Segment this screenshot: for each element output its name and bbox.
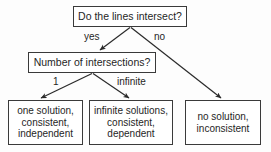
node-one-solution: one solution, consistent, independent [8,100,83,145]
node-one-solution-line-1: one solution, [17,105,74,117]
edge-label-infinite: infinite [117,76,146,87]
edge-intersections-to-one-solution [41,74,92,99]
node-root-question-line-1: Do the lines intersect? [78,10,182,22]
node-one-solution-line-2: consistent, [22,117,70,129]
node-intersections-question: Number of intersections? [28,52,156,73]
edge-label-yes: yes [84,31,100,42]
node-infinite-solutions-line-1: infinite solutions, [94,105,168,117]
node-infinite-solutions-line-3: dependent [107,128,154,140]
edge-label-one: 1 [53,76,59,87]
node-intersections-question-line-1: Number of intersections? [34,56,151,68]
edge-label-no: no [154,31,165,42]
node-infinite-solutions: infinite solutions, consistent, dependen… [89,100,173,145]
flowchart-diagram: Do the lines intersect? Number of inters… [0,0,271,152]
node-infinite-solutions-line-2: consistent, [107,117,155,129]
node-one-solution-line-3: independent [18,128,73,140]
node-no-solution: no solution, inconsistent [185,100,261,145]
edge-root-to-intersections [100,28,130,51]
node-root-question: Do the lines intersect? [73,6,187,27]
node-no-solution-line-1: no solution, [197,111,248,123]
node-no-solution-line-2: inconsistent [197,123,250,135]
